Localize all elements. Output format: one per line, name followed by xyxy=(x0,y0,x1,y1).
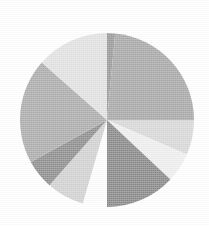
pie-chart-figure: Grayscale pie chart with ten wedges xyxy=(0,0,209,226)
pie-slice-group xyxy=(20,33,194,207)
pie-chart-canvas xyxy=(0,0,209,226)
